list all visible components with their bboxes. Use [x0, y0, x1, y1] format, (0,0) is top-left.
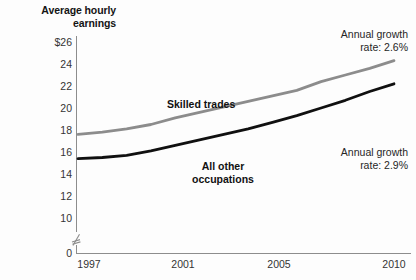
- annotation-all-other-growth: Annual growth rate: 2.9%: [288, 146, 408, 171]
- annotation-line-1: Annual growth: [288, 28, 408, 41]
- series-label-line-2: occupations: [190, 173, 256, 186]
- line-skilled-trades: [78, 61, 394, 135]
- annotation-line-2: rate: 2.9%: [288, 159, 408, 172]
- series-label-line-1: All other: [190, 160, 256, 173]
- annotation-skilled-trades-growth: Annual growth rate: 2.6%: [288, 28, 408, 53]
- series-label-all-other-occupations: All other occupations: [190, 160, 256, 185]
- series-label-skilled-trades: Skilled trades: [167, 98, 235, 111]
- annotation-line-1: Annual growth: [288, 146, 408, 159]
- chart-container: Average hourly earnings $26 24 22 20 18 …: [0, 0, 416, 280]
- annotation-line-2: rate: 2.6%: [288, 41, 408, 54]
